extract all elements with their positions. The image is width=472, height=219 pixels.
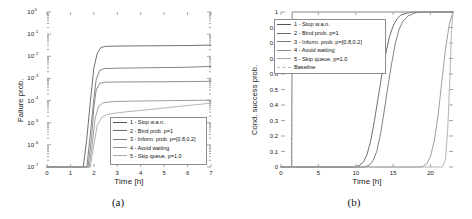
svg-text:0.4: 0.4 — [270, 102, 279, 108]
legend-swatch — [113, 155, 127, 156]
legend-label: Baseline — [294, 64, 315, 70]
svg-text:0.1: 0.1 — [270, 149, 279, 155]
svg-text:-5: -5 — [35, 118, 39, 123]
svg-text:-6: -6 — [35, 140, 39, 145]
svg-text:0.3: 0.3 — [270, 118, 279, 124]
svg-text:2: 2 — [92, 170, 96, 176]
panel-b-legend: 1 - Stop w.a.n.2 - Bind prob. p=13 - Inf… — [274, 19, 386, 74]
legend-swatch — [277, 24, 291, 25]
legend-label: 4 - Avoid waiting — [130, 145, 169, 151]
legend-label: 3 - Inform. prob. p=[0.8,0.2] — [130, 136, 195, 142]
svg-text:-1: -1 — [35, 29, 39, 34]
legend-item: 2 - Bind prob. p=1 — [277, 29, 385, 37]
panel-b-caption: (b) — [236, 196, 472, 208]
legend-label: 5 - Skip queue, p=1.0 — [130, 153, 181, 159]
legend-swatch — [277, 33, 291, 34]
panel-a: 0123456710010-110-210-310-410-510-610-7 … — [0, 0, 236, 219]
legend-swatch — [277, 41, 291, 42]
svg-text:0: 0 — [275, 164, 279, 170]
svg-text:0: 0 — [45, 170, 49, 176]
svg-text:0.5: 0.5 — [270, 87, 279, 93]
legend-swatch — [277, 50, 291, 51]
svg-text:0.2: 0.2 — [270, 133, 279, 139]
svg-text:0: 0 — [35, 7, 38, 12]
legend-item: 4 - Avoid waiting — [113, 144, 206, 152]
legend-swatch — [277, 58, 291, 59]
legend-swatch — [113, 139, 127, 140]
panel-b-ylabel: Cond. success prob. — [250, 65, 259, 135]
svg-text:15: 15 — [390, 170, 397, 176]
svg-text:10: 10 — [352, 170, 359, 176]
legend-item: 4 - Avoid waiting — [277, 46, 385, 54]
panel-a-ylabel: Failure prob. — [16, 79, 25, 122]
svg-text:6: 6 — [186, 170, 190, 176]
legend-item: 1 - Stop w.a.n. — [113, 118, 206, 126]
svg-text:7: 7 — [209, 170, 213, 176]
legend-swatch — [113, 147, 127, 148]
svg-text:5: 5 — [317, 170, 321, 176]
legend-label: 1 - Stop w.a.n. — [294, 21, 330, 27]
legend-item: 5 - Skip queue, p=1.0 — [113, 152, 206, 160]
panel-a-xlabel: Time [h] — [47, 177, 211, 186]
panel-a-legend: 1 - Stop w.a.n.2 - Bind prob. p=13 - Inf… — [110, 117, 207, 165]
legend-label: 5 - Skip queue, p=1.0 — [294, 56, 347, 62]
figure-container: 0123456710010-110-210-310-410-510-610-7 … — [0, 0, 472, 219]
svg-text:0: 0 — [279, 170, 283, 176]
panel-a-caption: (a) — [0, 196, 236, 208]
legend-label: 2 - Bind prob. p=1 — [130, 128, 173, 134]
legend-swatch — [277, 67, 291, 68]
svg-text:-3: -3 — [35, 73, 39, 78]
legend-item: 3 - Inform. prob. p=[0.8,0.2] — [113, 135, 206, 143]
svg-text:20: 20 — [427, 170, 434, 176]
svg-text:-7: -7 — [35, 162, 39, 167]
legend-item: 1 - Stop w.a.n. — [277, 20, 385, 28]
legend-swatch — [113, 122, 127, 123]
legend-label: 1 - Stop w.a.n. — [130, 119, 164, 125]
legend-item: Baseline — [277, 63, 385, 71]
panel-b-xlabel: Time [h] — [281, 177, 453, 186]
svg-text:3: 3 — [116, 170, 120, 176]
svg-text:-2: -2 — [35, 51, 39, 56]
panel-a-plot: 0123456710010-110-210-310-410-510-610-7 — [0, 0, 236, 195]
svg-text:1: 1 — [275, 9, 279, 15]
svg-text:1: 1 — [69, 170, 73, 176]
legend-item: 2 - Bind prob. p=1 — [113, 127, 206, 135]
legend-item: 5 - Skip queue, p=1.0 — [277, 55, 385, 63]
svg-text:-4: -4 — [35, 95, 39, 100]
svg-text:4: 4 — [139, 170, 143, 176]
legend-item: 3 - Inform. prob. p=[0.8,0.2] — [277, 38, 385, 46]
svg-text:5: 5 — [162, 170, 166, 176]
legend-label: 3 - Inform. prob. p=[0.8,0.2] — [294, 39, 362, 45]
legend-swatch — [113, 130, 127, 131]
panel-b: 0510152000.10.20.30.40.50.60.70.80.91 Co… — [236, 0, 472, 219]
legend-label: 2 - Bind prob. p=1 — [294, 30, 339, 36]
legend-label: 4 - Avoid waiting — [294, 47, 335, 53]
